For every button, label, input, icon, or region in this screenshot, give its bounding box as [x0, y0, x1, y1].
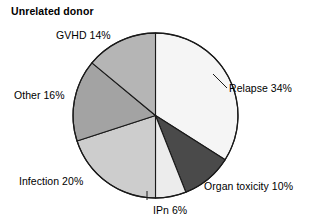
- pie-chart-figure: Unrelated donor GVHD 14% Relapse 34% Oth…: [0, 0, 318, 224]
- slice-label-infection: Infection 20%: [19, 176, 83, 187]
- slice-label-relapse: Relapse 34%: [229, 83, 292, 94]
- slice-label-ipn: IPn 6%: [153, 205, 187, 216]
- pie-slices-group: [73, 33, 238, 198]
- slice-label-other: Other 16%: [14, 90, 65, 101]
- slice-label-gvhd: GVHD 14%: [56, 30, 111, 41]
- slice-label-organ-toxicity: Organ toxicity 10%: [204, 181, 293, 192]
